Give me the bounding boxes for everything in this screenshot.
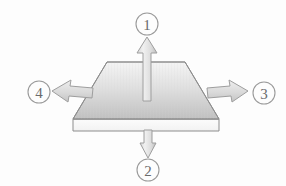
plate-front-face: [73, 119, 219, 131]
label-1-text: 1: [143, 17, 151, 33]
right-arrow-shape: [207, 80, 248, 102]
label-3: 3: [253, 82, 275, 104]
label-2-text: 2: [144, 163, 152, 179]
down-arrow-shape: [140, 130, 156, 158]
label-3-text: 3: [260, 86, 268, 102]
figure-canvas: 1 2 3 4: [0, 0, 286, 186]
label-2: 2: [137, 159, 159, 181]
label-4-text: 4: [35, 85, 43, 101]
label-1: 1: [136, 13, 158, 35]
label-4: 4: [28, 81, 50, 103]
down-arrow: [140, 130, 156, 158]
right-arrow: [207, 80, 248, 102]
plate-force-diagram: 1 2 3 4: [0, 0, 286, 186]
